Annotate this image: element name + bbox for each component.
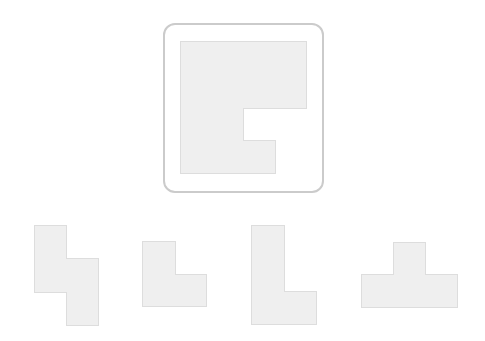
option-4-t-shape[interactable] [0,0,485,341]
option-4-polygon[interactable] [361,242,457,307]
